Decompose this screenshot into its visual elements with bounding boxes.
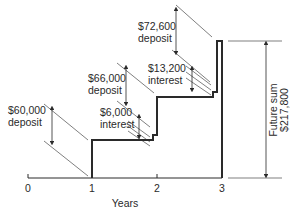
x-axis-label: Years <box>112 197 138 209</box>
tick-1: 1 <box>89 182 95 194</box>
tick-0: 0 <box>25 182 31 194</box>
interest-2-label: interest <box>148 74 183 86</box>
deposit-3-label: deposit <box>138 32 172 44</box>
deposit-2-amount: $66,000 <box>88 72 126 84</box>
interest-2-annotation: $13,200 interest <box>148 62 211 95</box>
tick-2: 2 <box>154 182 160 194</box>
interest-1-label: interest <box>100 118 135 130</box>
deposit-1-amount: $60,000 <box>8 104 46 116</box>
interest-1-amount: $6,000 <box>100 106 132 118</box>
cash-flow-diagram: 0 1 2 3 Years $60,000 deposit $6,000 int… <box>0 0 295 209</box>
future-sum-amount: $217,800 <box>278 88 290 132</box>
deposit-1-label: deposit <box>8 116 42 128</box>
deposit-1-annotation: $60,000 deposit <box>8 104 88 176</box>
future-sum-annotation: Future sum $217,800 <box>228 41 290 178</box>
deposit-2-label: deposit <box>88 84 122 96</box>
deposit-3-amount: $72,600 <box>138 20 176 32</box>
interest-2-amount: $13,200 <box>148 62 186 74</box>
x-axis: 0 1 2 3 Years <box>25 174 225 209</box>
tick-3: 3 <box>219 182 225 194</box>
